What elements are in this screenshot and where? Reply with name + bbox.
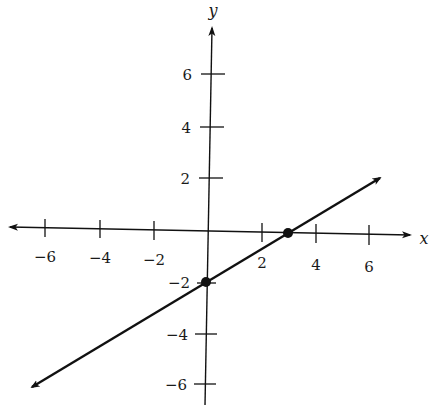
y-axis: 6 4 2 −2 −4 −6 y [165,1,225,405]
y-tick-label: −6 [165,376,187,394]
x-axis-ticks [45,219,369,245]
coordinate-plane: −6 −4 −2 2 4 6 x 6 4 2 −2 −4 −6 y [0,0,432,408]
x-intercept-point [283,228,293,238]
x-axis-label: x [419,229,428,248]
y-tick-label: 6 [182,66,192,84]
x-axis: −6 −4 −2 2 4 6 x [10,219,429,276]
x-tick-label: −2 [143,251,165,269]
y-intercept-point [201,277,211,287]
y-tick-label: −4 [166,326,188,344]
x-tick-label: −4 [89,249,111,267]
x-tick-label: 6 [364,258,374,276]
y-tick-label: 4 [181,119,191,137]
x-tick-label: 2 [257,254,267,272]
y-axis-label: y [207,1,218,20]
y-tick-label: −2 [168,274,190,292]
x-axis-tick-labels: −6 −4 −2 2 4 6 [34,248,374,276]
x-tick-label: 4 [311,256,321,274]
y-tick-label: 2 [180,170,190,188]
y-axis-ticks [194,74,225,384]
x-tick-label: −6 [34,248,56,266]
